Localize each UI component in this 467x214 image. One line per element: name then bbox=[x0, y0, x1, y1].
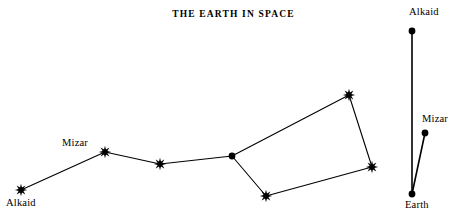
star-marker-icon bbox=[15, 184, 27, 196]
constellation-line bbox=[160, 156, 232, 164]
star-chart-figure: THE EARTH IN SPACE AlkaidMizarAlkaidMiza… bbox=[0, 0, 467, 214]
label-alkaid-right: Alkaid bbox=[409, 6, 439, 17]
constellation-line bbox=[412, 133, 425, 194]
constellation-stars bbox=[15, 28, 429, 203]
constellation-line bbox=[232, 95, 349, 156]
constellation-lines bbox=[21, 31, 425, 196]
constellation-line bbox=[21, 152, 105, 190]
label-mizar-right: Mizar bbox=[422, 113, 448, 124]
constellation-line bbox=[232, 156, 266, 196]
dot-marker-icon bbox=[229, 153, 236, 160]
constellation-line bbox=[266, 167, 372, 196]
star-marker-icon bbox=[343, 89, 355, 101]
star-marker-icon bbox=[260, 190, 272, 202]
constellation-line bbox=[105, 152, 160, 164]
dot-marker-icon bbox=[422, 130, 429, 137]
label-mizar-left: Mizar bbox=[62, 137, 88, 148]
label-alkaid-left: Alkaid bbox=[6, 197, 36, 208]
dot-marker-icon bbox=[409, 191, 416, 198]
star-marker-icon bbox=[99, 146, 111, 158]
constellation-line bbox=[349, 95, 372, 167]
label-earth: Earth bbox=[405, 199, 429, 210]
star-marker-icon bbox=[154, 158, 166, 170]
dot-marker-icon bbox=[409, 28, 416, 35]
constellation-diagram bbox=[0, 0, 467, 214]
star-marker-icon bbox=[366, 161, 378, 173]
